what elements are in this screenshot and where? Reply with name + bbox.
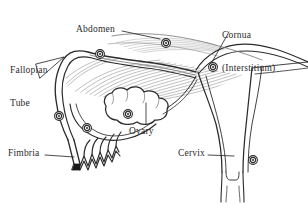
leader-fimbria [45,155,74,157]
label-cornua-line1: Cornua [222,30,275,41]
marker-abdomen [162,39,171,48]
label-ovary: Ovary [129,126,154,137]
label-fimbria: Fimbria [8,148,39,159]
fimbria-fringe [68,140,80,164]
label-fallopian-tube-line1: Fallopian [10,65,48,76]
label-fallopian-tube-line2: Tube [10,98,48,109]
marker-tube-lateral [55,112,64,121]
marker-cervix [249,156,258,165]
fimbria-tip [72,164,80,170]
marker-cornua [209,63,218,72]
label-cornua-line2: (Interstitium) [222,63,275,74]
marker-tube-inferior [83,124,92,133]
cervical-os-contour [226,172,239,180]
vagina-inner-left [226,186,227,202]
marker-ovary [124,110,133,119]
label-cervix: Cervix [178,148,205,159]
vagina-left-wall [221,172,222,202]
leader-abdomen [122,31,160,39]
label-cornua: Cornua (Interstitium) [222,8,275,96]
fimbria-zigzag [80,132,121,170]
ovary-outline [104,87,168,125]
leader-cervix [208,155,234,156]
label-fallopian-tube: Fallopian Tube [10,43,48,131]
diagram-canvas: Fallopian Tube Abdomen Cornua (Interstit… [0,0,308,204]
fallopian-tube-midline [90,55,195,75]
vagina-inner-right [239,186,240,202]
vagina-right-wall [243,172,244,202]
label-abdomen: Abdomen [76,24,115,35]
marker-tube-superior [96,50,105,59]
